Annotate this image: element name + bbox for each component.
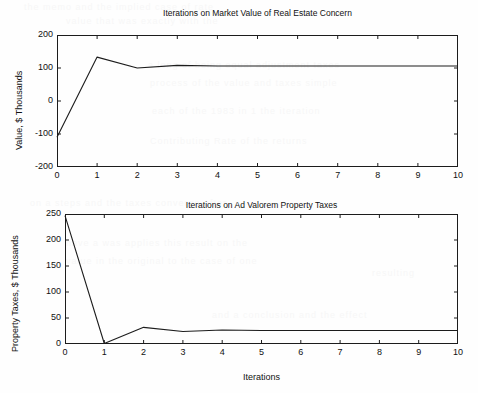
data-line-property-taxes [0, 196, 478, 393]
market-value-panel: Iterations on Market Value of Real Estat… [0, 0, 478, 196]
data-line-market-value [0, 0, 478, 196]
series-line [57, 57, 458, 137]
figure-canvas: the memo and the implied case of rateval… [0, 0, 478, 393]
series-line [65, 216, 458, 344]
property-taxes-panel: Iterations on Ad Valorem Property Taxes … [0, 196, 478, 393]
